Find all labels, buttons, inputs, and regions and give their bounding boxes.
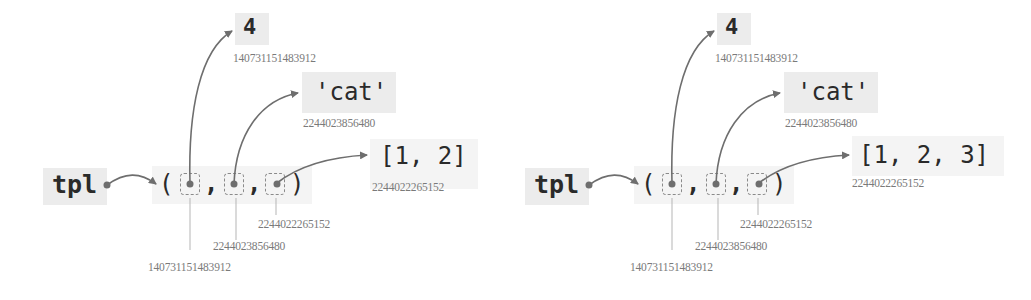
reference-arrows <box>0 0 515 300</box>
diagram-after: tpl ( , , ) 4 140731151483912 'cat' 2244… <box>482 0 997 300</box>
diagram-before: tpl ( , , ) 4 140731151483912 'cat' 2244… <box>0 0 515 300</box>
reference-arrows <box>482 0 997 300</box>
